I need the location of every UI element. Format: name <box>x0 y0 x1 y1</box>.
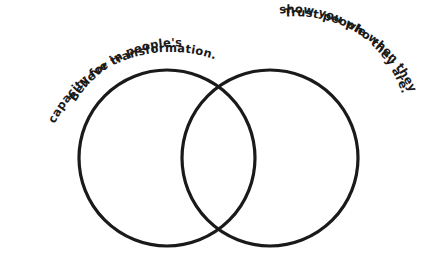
right-circle <box>182 70 358 246</box>
left-circle <box>79 70 255 246</box>
venn-diagram: Believe in people's capacity for transfo… <box>0 0 441 258</box>
left-circle-label-line-2: capacity for transformation. <box>45 41 219 125</box>
